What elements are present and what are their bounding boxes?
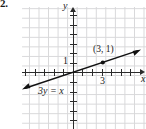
x-axis-tick: [121, 69, 122, 76]
y-axis-tick: [70, 15, 77, 16]
x-axis-tick: [44, 69, 45, 76]
grid-left-fade: [0, 0, 24, 129]
y-axis-tick: [70, 44, 77, 45]
y-axis-tick: [70, 120, 77, 121]
y-axis-tick: [70, 82, 77, 83]
x-axis-tick: [25, 69, 26, 76]
equation-label: 3y = x: [38, 86, 64, 96]
y-axis-tick: [70, 92, 77, 93]
graph-figure: 2. y x 1 3 (3, 1) 3y = x: [0, 0, 146, 129]
coordinate-grid: [22, 7, 146, 129]
y-axis-tick: [70, 53, 77, 54]
x-axis-tick: [92, 69, 93, 76]
y-axis-tick: [70, 101, 77, 102]
x-axis-tick: [63, 69, 64, 76]
x-tick-label-3: 3: [100, 76, 105, 86]
x-axis-tick: [130, 69, 131, 76]
x-axis-tick: [35, 69, 36, 76]
x-axis-tick: [54, 69, 55, 76]
y-axis-arrow-icon: [70, 7, 76, 12]
y-tick-label-1: 1: [63, 56, 68, 66]
y-axis-tick: [70, 63, 77, 64]
y-axis-tick: [70, 25, 77, 26]
point-coordinate-label: (3, 1): [93, 45, 114, 55]
x-axis-tick: [82, 69, 83, 76]
x-axis-label: x: [141, 74, 145, 84]
x-axis-tick: [111, 69, 112, 76]
y-axis-label: y: [63, 1, 67, 11]
y-axis-tick: [70, 111, 77, 112]
y-axis-tick: [70, 34, 77, 35]
problem-number: 2.: [0, 0, 8, 9]
